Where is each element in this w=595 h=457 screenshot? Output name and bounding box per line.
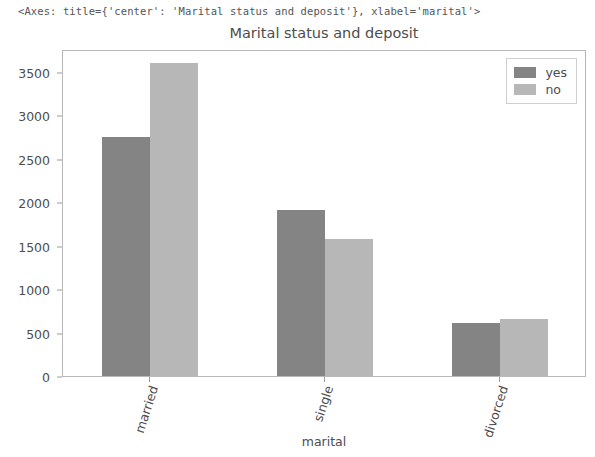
chart-title: Marital status and deposit (62, 25, 586, 41)
bar-single-no[interactable] (325, 239, 373, 376)
axes-repr-text: <Axes: title={'center': 'Marital status … (18, 5, 480, 17)
x-tick-label-divorced: divorced (480, 384, 511, 440)
plot-area: yesno (62, 50, 586, 377)
y-tick-label: 3000 (18, 109, 50, 124)
y-tick-label: 2500 (18, 152, 50, 167)
x-tick-mark (499, 377, 500, 382)
x-tick-label-married: married (132, 384, 161, 435)
bar-divorced-yes[interactable] (452, 323, 500, 376)
y-tick-label: 0 (42, 370, 50, 385)
matplotlib-figure: Marital status and deposit 0500100015002… (0, 22, 595, 457)
bar-divorced-no[interactable] (500, 319, 548, 376)
y-tick-label: 1500 (18, 239, 50, 254)
legend-swatch-no (514, 84, 536, 95)
legend-label-no: no (545, 82, 561, 97)
x-tick-label-single: single (310, 384, 336, 424)
bar-married-yes[interactable] (102, 137, 150, 376)
legend[interactable]: yesno (506, 58, 577, 104)
y-axis: 0500100015002000250030003500 (0, 50, 62, 377)
x-axis-label: marital (62, 434, 586, 449)
legend-item-yes[interactable]: yes (514, 64, 567, 81)
bar-single-yes[interactable] (277, 210, 325, 376)
y-tick-label: 1000 (18, 283, 50, 298)
legend-item-no[interactable]: no (514, 81, 567, 98)
legend-label-yes: yes (545, 65, 567, 80)
x-tick-mark (149, 377, 150, 382)
legend-swatch-yes (514, 67, 536, 78)
y-tick-label: 3500 (18, 66, 50, 81)
y-tick-label: 500 (26, 326, 50, 341)
y-tick-label: 2000 (18, 196, 50, 211)
x-tick-mark (324, 377, 325, 382)
bar-married-no[interactable] (150, 63, 198, 376)
